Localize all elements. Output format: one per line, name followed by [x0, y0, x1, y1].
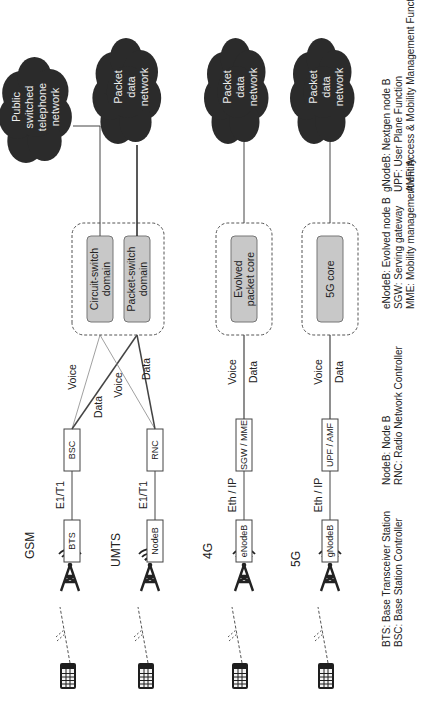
svg-text:Packet: Packet	[221, 70, 233, 104]
phone-icon	[60, 663, 76, 689]
data-label-5g: Data	[333, 361, 345, 383]
voice-label-mid: Voice	[112, 372, 124, 398]
svg-text:data: data	[234, 75, 246, 97]
svg-text:network: network	[247, 67, 259, 106]
data-label-4g: Data	[247, 361, 259, 383]
legend-bts: BTS: Base Transceiver Station	[381, 511, 392, 647]
svg-text:data: data	[320, 75, 332, 97]
svg-text:packet core: packet core	[244, 252, 256, 306]
svg-text:telephone: telephone	[36, 83, 48, 131]
legend-enodeb: eNodeB: Evolved node B	[381, 197, 392, 309]
legend-nodeb: NodeB: Node B	[381, 415, 392, 485]
station-bts: BTS	[67, 532, 77, 550]
phone-icon	[318, 663, 334, 689]
svg-text:Public: Public	[10, 92, 22, 122]
gsm-row: GSM BTS E1/T1 BSC	[23, 429, 81, 689]
svg-text:domain: domain	[100, 262, 112, 297]
link-label-umts: E1/T1	[137, 481, 149, 509]
svg-text:Packet: Packet	[307, 70, 319, 104]
data-label-bottom: Data	[140, 358, 152, 380]
link-label-4g: Eth / IP	[226, 478, 238, 512]
svg-text:Packet-switch: Packet-switch	[125, 246, 137, 311]
gen-label-5g: 5G	[289, 551, 303, 567]
link-label-gsm: E1/T1	[54, 481, 66, 509]
station-gnodeb: gNodeB	[325, 525, 335, 558]
svg-text:network: network	[49, 87, 61, 126]
phone-icon	[232, 663, 248, 689]
gen-label-gsm: GSM	[23, 532, 37, 559]
legacy-core: Voice Data Voice Data Circuit-switch dom…	[0, 38, 164, 429]
phone-icon	[138, 663, 154, 689]
legend-sgw: SGW: Serving gateway	[393, 206, 404, 309]
nr-row: 5G gNodeB Eth / IP UPF / AMF Voice Data …	[289, 38, 358, 689]
svg-text:Circuit-switch: Circuit-switch	[88, 248, 100, 311]
controller-rnc: RNC	[150, 440, 160, 460]
voice-label-5g: Voice	[312, 359, 324, 385]
controller-sgw-mme: SGW / MME	[239, 420, 249, 470]
data-label-mid: Data	[92, 396, 104, 418]
legend-upf: UPF: User Plane Function	[393, 76, 404, 192]
legend-gnodeb: gNodeB: Nextgen node B	[381, 78, 392, 192]
legend: BTS: Base Transceiver Station BSC: Base …	[381, 0, 416, 647]
svg-text:network: network	[138, 67, 150, 106]
gen-label-umts: UMTS	[109, 533, 123, 567]
svg-text:5G core: 5G core	[324, 260, 336, 298]
controller-upf-amf: UPF / AMF	[325, 423, 335, 468]
voice-label-top: Voice	[66, 364, 78, 390]
svg-text:network: network	[333, 67, 345, 106]
station-enodeb: eNodeB	[239, 525, 249, 558]
voice-label-4g: Voice	[226, 359, 238, 385]
gen-label-4g: 4G	[201, 543, 215, 559]
svg-text:switched: switched	[23, 86, 35, 129]
svg-text:data: data	[125, 75, 137, 97]
legend-rnc: RNC: Radio Network Controller	[393, 345, 404, 485]
legend-amf: AMF: Access & Mobility Management Functi…	[405, 0, 416, 192]
network-evolution-diagram: GSM BTS E1/T1 BSC UMTS NodeB E1/T1 RNC V…	[0, 0, 427, 707]
station-nodeb: NodeB	[150, 527, 160, 555]
umts-row: UMTS NodeB E1/T1 RNC	[109, 429, 163, 689]
lte-row: 4G eNodeB Eth / IP SGW / MME Voice Data …	[201, 38, 272, 689]
svg-text:domain: domain	[137, 262, 149, 297]
svg-text:Packet: Packet	[112, 70, 124, 104]
link-label-5g: Eth / IP	[312, 478, 324, 512]
legend-bsc: BSC: Base Station Controller	[393, 517, 404, 647]
controller-bsc: BSC	[67, 440, 77, 459]
svg-text:Evolved: Evolved	[232, 260, 244, 298]
